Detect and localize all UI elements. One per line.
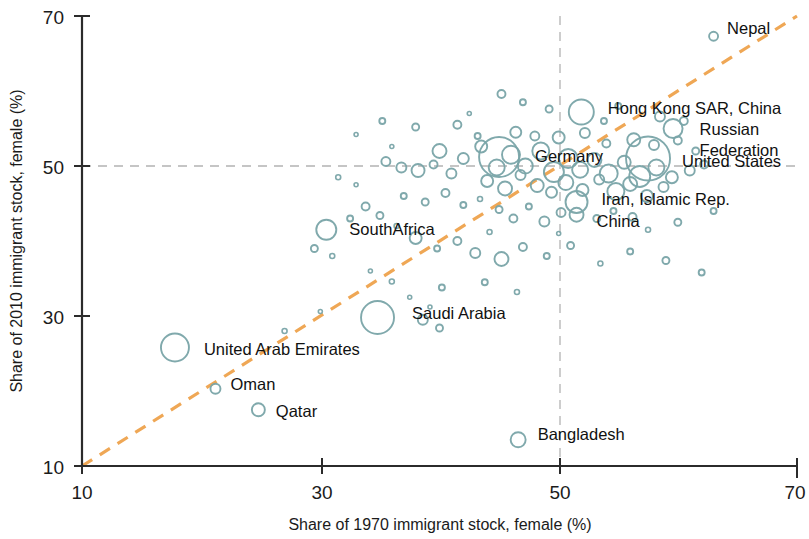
data-point [434,246,440,252]
point-label: Nepal [727,19,770,37]
y-tick-label-10: 10 [43,457,64,478]
data-point [336,175,341,180]
data-point [430,161,438,169]
data-point-labeled [361,301,394,334]
data-point [475,133,481,139]
data-point [381,157,390,166]
data-point [433,144,447,158]
data-point [311,245,318,252]
data-point [439,285,445,291]
data-point-labeled [569,100,594,125]
data-point [470,248,480,258]
data-point [389,279,394,284]
data-point [368,269,372,273]
data-point [601,118,607,124]
point-label-group: Germany [535,147,604,165]
data-point [379,118,385,124]
data-point-labeled [252,403,265,416]
point-label-group: Oman [230,375,275,393]
x-tick-label-30: 30 [311,482,332,503]
data-point [520,99,526,105]
point-label: United Arab Emirates [204,340,360,358]
data-point [376,212,383,219]
point-label: Germany [535,147,604,165]
data-point-labeled [479,137,519,177]
point-label: Hong Kong SAR, China [608,99,782,117]
data-point [539,217,549,227]
data-point-labeled [316,220,336,240]
data-point [401,193,407,199]
data-point [390,145,394,149]
data-point [362,203,370,211]
data-point [441,189,449,197]
x-tick-label-10: 10 [71,482,92,503]
data-point [354,133,358,137]
data-point [662,257,669,264]
data-point [487,230,492,235]
point-label: Qatar [276,402,318,420]
data-point [519,243,527,251]
point-label-group: SouthAfrica [349,220,435,238]
data-point [577,184,589,196]
data-point [412,124,419,131]
data-point-labeled [511,432,526,447]
point-label-group: Hong Kong SAR, China [608,99,782,117]
point-label: Bangladesh [538,425,625,443]
y-tick-label-50: 50 [43,157,64,178]
parity-reference-line [82,16,797,466]
data-point-labeled [210,384,220,394]
data-point [498,182,512,196]
point-label: United States [682,152,781,170]
data-point [489,160,505,176]
data-point [546,106,553,113]
data-point [494,252,508,266]
point-label: Saudi Arabia [412,304,506,322]
y-tick-label-70: 70 [43,7,64,28]
data-point [557,232,561,236]
data-point [666,171,678,183]
data-point [460,202,466,208]
data-point [453,121,461,129]
data-point [546,187,557,198]
data-point [598,261,603,266]
point-label-group: Bangladesh [538,425,625,443]
data-point [354,183,358,187]
data-point [396,163,406,173]
point-label: Oman [230,375,275,393]
data-point [567,242,574,249]
data-point [422,199,429,206]
data-point [600,165,618,183]
data-point [646,227,651,232]
data-point [446,169,456,179]
point-label-group: United States [682,152,781,170]
point-label: Iran, Islamic Rep. [602,190,730,208]
data-point [510,127,521,138]
data-point-labeled [566,191,588,213]
point-label-group: Iran, Islamic Rep. [602,190,730,208]
x-tick-label-50: 50 [549,482,570,503]
data-point-labeled [161,334,189,362]
data-point [514,290,519,295]
point-label-group: United Arab Emirates [204,340,360,358]
point-label: SouthAfrica [349,220,435,238]
data-point [526,204,532,210]
data-point [436,325,443,332]
scatter-chart: NepalHong Kong SAR, ChinaRussianFederati… [0,0,809,539]
data-point [602,140,610,148]
data-point [648,160,664,176]
data-point [711,208,717,214]
data-point [618,156,631,169]
data-point-labeled [570,208,584,222]
data-point [467,112,471,116]
data-point-labeled [626,137,670,181]
data-point [627,249,633,255]
data-point [553,132,565,144]
data-point [509,215,517,223]
point-label-group: China [597,212,641,230]
data-labels-layer: NepalHong Kong SAR, ChinaRussianFederati… [204,19,782,443]
data-point [282,329,287,334]
data-point [649,140,659,150]
data-point [330,254,335,259]
data-point [699,270,705,276]
data-point [458,153,469,164]
